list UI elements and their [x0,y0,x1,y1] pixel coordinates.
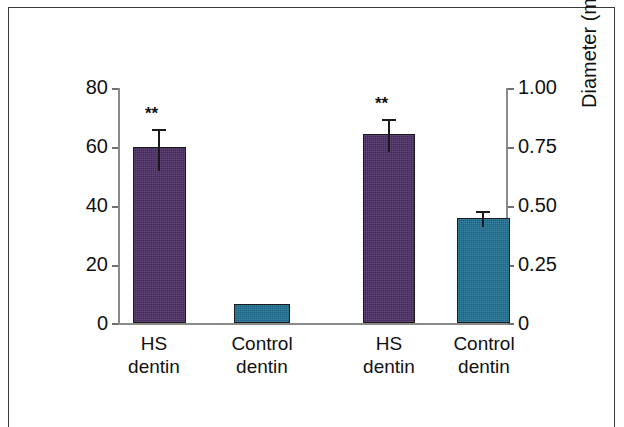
x-label-control-dentin-2-line2: dentin [434,355,534,378]
bar-control-dentin-diameter [457,218,510,323]
plot-area: 80 60 40 20 0 1.00 0.75 0.50 0.25 0 ** *… [118,88,508,324]
errorbar-cap-control-dentin-diameter [476,211,490,213]
right-tick-label-0-50: 0.50 [518,195,557,215]
x-label-hs-dentin-2-line1: HS [339,332,439,355]
left-tick-label-80: 80 [48,77,108,97]
x-label-hs-dentin-2: HS dentin [339,332,439,378]
left-tick-80 [112,88,118,90]
x-label-hs-dentin-1-line1: HS [104,332,204,355]
errorbar-hs-dentin-diameter [388,119,390,152]
errorbar-hs-dentin-density [158,129,160,171]
x-label-hs-dentin-1-line2: dentin [104,355,204,378]
right-tick-1-00 [508,88,514,90]
x-label-control-dentin-1-line1: Control [212,332,312,355]
errorbar-cap-hs-dentin-diameter [382,119,396,121]
left-tick-60 [112,147,118,149]
left-tick-20 [112,265,118,267]
x-label-control-dentin-2-line1: Control [434,332,534,355]
left-tick-label-20: 20 [48,254,108,274]
bar-hs-dentin-diameter [363,134,415,323]
x-label-control-dentin-1: Control dentin [212,332,312,378]
left-tick-0 [112,323,118,325]
x-label-hs-dentin-2-line2: dentin [339,355,439,378]
errorbar-control-dentin-diameter [482,211,484,227]
errorbar-cap-hs-dentin-density [152,129,166,131]
significance-marker-density: ** [145,107,158,121]
bar-hs-dentin-density [133,147,186,323]
bar-control-dentin-density [234,304,290,323]
right-tick-0 [508,323,514,325]
left-axis-line [118,88,120,324]
left-tick-label-0: 0 [48,313,108,333]
right-axis-title: Diameter (mm) [578,0,601,108]
right-tick-label-0-25: 0.25 [518,254,557,274]
x-label-hs-dentin-1: HS dentin [104,332,204,378]
x-axis-baseline [118,323,508,325]
left-tick-label-60: 60 [48,136,108,156]
x-label-control-dentin-2: Control dentin [434,332,534,378]
right-tick-0-75 [508,147,514,149]
right-tick-0-50 [508,206,514,208]
right-tick-label-0: 0 [518,313,529,333]
left-tick-40 [112,206,118,208]
right-tick-label-1-00: 1.00 [518,77,557,97]
x-label-control-dentin-1-line2: dentin [212,355,312,378]
right-tick-label-0-75: 0.75 [518,136,557,156]
significance-marker-diameter: ** [375,97,388,111]
left-tick-label-40: 40 [48,195,108,215]
